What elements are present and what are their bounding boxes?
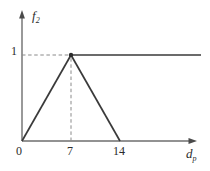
- peak-point-marker: [69, 53, 73, 57]
- x-tick-label-0: 0: [16, 145, 22, 157]
- falling-edge-segment: [71, 55, 120, 141]
- x-axis-label-base: d: [186, 146, 193, 161]
- plot-canvas: [0, 0, 210, 171]
- chart-figure: f2 dp 1 0 7 14: [0, 0, 210, 171]
- y-tick-label-1: 1: [11, 45, 17, 57]
- x-tick-label-14: 14: [113, 145, 125, 157]
- y-axis-label: f2: [32, 9, 40, 22]
- rising-edge-segment: [22, 55, 71, 141]
- x-axis-label-subscript: p: [193, 154, 197, 163]
- x-axis-arrowhead: [189, 138, 198, 144]
- y-axis-arrowhead: [19, 10, 25, 19]
- x-tick-label-7: 7: [67, 145, 73, 157]
- y-axis-label-subscript: 2: [36, 16, 40, 25]
- x-axis-label: dp: [186, 147, 197, 160]
